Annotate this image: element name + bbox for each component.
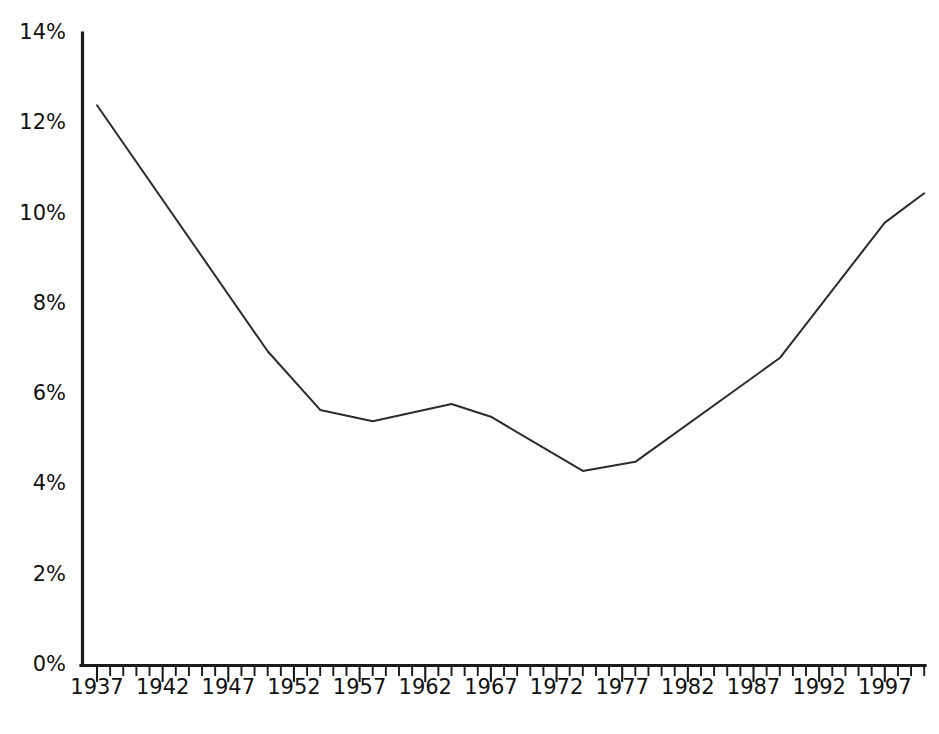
y-axis-tick-label: 10% [19,201,66,225]
y-axis-tick-label-group: 0%2%4%6%8%10%12%14% [19,20,66,676]
data-series-line [97,105,924,471]
y-axis-tick-label: 0% [33,652,66,676]
line-chart: 0%2%4%6%8%10%12%14% 19371942194719521957… [0,0,939,734]
y-axis-tick-label: 14% [19,20,66,44]
chart-canvas: 0%2%4%6%8%10%12%14% 19371942194719521957… [0,0,939,734]
y-axis-tick-label: 2% [33,562,66,586]
y-axis-tick-label: 8% [33,291,66,315]
y-axis-tick-label: 6% [33,381,66,405]
y-axis-tick-label: 12% [19,110,66,134]
y-axis-tick-label: 4% [33,471,66,495]
